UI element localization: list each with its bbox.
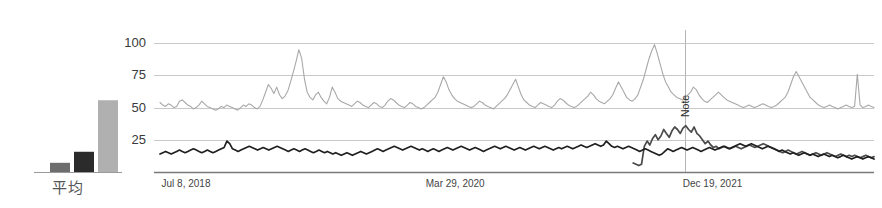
series-line-lower-dark bbox=[160, 141, 874, 159]
note-annotation-label: Note bbox=[679, 95, 691, 117]
series-line-upper-light bbox=[160, 45, 874, 111]
x-axis-tick-end: Dec 19, 2021 bbox=[683, 178, 743, 189]
y-axis-tick-75: 75 bbox=[112, 67, 146, 82]
line-chart-plot bbox=[112, 0, 882, 208]
x-axis-tick-start: Jul 8, 2018 bbox=[162, 178, 211, 189]
bar-2 bbox=[74, 152, 94, 172]
x-axis-tick-middle: Mar 29, 2020 bbox=[426, 178, 485, 189]
timeseries-line-chart: 100 75 50 25 Jul 8, 2018 Mar 29, 2020 De… bbox=[112, 0, 882, 208]
y-axis-tick-25: 25 bbox=[112, 132, 146, 147]
y-axis-tick-50: 50 bbox=[112, 100, 146, 115]
bar-1 bbox=[50, 163, 70, 172]
y-axis-tick-100: 100 bbox=[112, 35, 146, 50]
chart-page: 平均 100 75 50 25 Jul 8, 2018 Mar 29, 2020… bbox=[0, 0, 882, 208]
